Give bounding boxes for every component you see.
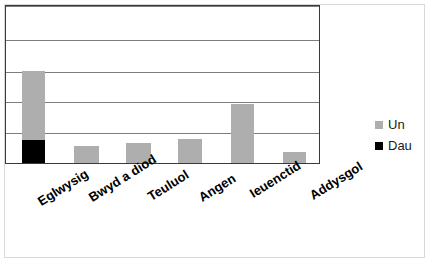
legend-item-un[interactable]: Un bbox=[375, 114, 427, 135]
bar-group-angen[interactable] bbox=[178, 6, 202, 163]
bar-segment-un[interactable] bbox=[74, 146, 99, 163]
bar-group-ieuenctid[interactable] bbox=[231, 6, 254, 163]
bar-segment-un[interactable] bbox=[178, 139, 202, 163]
bar-group-teuluol[interactable] bbox=[126, 6, 151, 163]
chart-legend: Un Dau bbox=[375, 114, 427, 156]
legend-label-un: Un bbox=[388, 118, 405, 131]
bar-segment-dau[interactable] bbox=[22, 140, 45, 163]
bar-group-eglwysig[interactable] bbox=[22, 6, 45, 163]
chart-outer-frame: Un Dau bbox=[4, 4, 425, 258]
legend-label-dau: Dau bbox=[388, 139, 412, 152]
plot-area bbox=[5, 5, 320, 164]
legend-swatch-un-icon bbox=[375, 121, 383, 129]
chart-screenshot: Un Dau Eglwysig Bwyd a diod Teuluol Ange… bbox=[0, 0, 440, 276]
bar-group-addysgol[interactable] bbox=[283, 6, 306, 163]
bar-segment-un[interactable] bbox=[22, 71, 45, 140]
legend-swatch-dau-icon bbox=[375, 142, 383, 150]
bars-layer bbox=[6, 6, 319, 163]
bar-segment-un[interactable] bbox=[231, 104, 254, 163]
legend-item-dau[interactable]: Dau bbox=[375, 135, 427, 156]
bar-group-bwyd-a-diod[interactable] bbox=[74, 6, 99, 163]
